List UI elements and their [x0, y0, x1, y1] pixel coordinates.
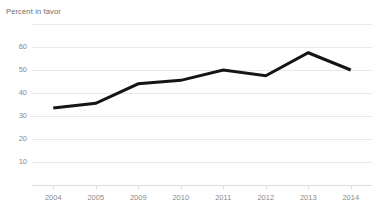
x-tick-label-2009: 2009 — [118, 194, 158, 202]
y-tick-label-60: 60 — [5, 43, 27, 51]
gridline-50 — [32, 70, 372, 71]
x-tick-label-2014: 2014 — [331, 194, 371, 202]
x-tick-label-2005: 2005 — [76, 194, 116, 202]
x-tick-label-2004: 2004 — [33, 194, 73, 202]
x-axis-line — [32, 185, 372, 186]
y-tick-label-50: 50 — [5, 66, 27, 74]
x-tick-label-2010: 2010 — [161, 194, 201, 202]
gridline-60 — [32, 47, 372, 48]
x-tickmark-2005 — [96, 185, 97, 189]
gridline-20 — [32, 139, 372, 140]
x-tickmark-2009 — [138, 185, 139, 189]
x-tickmark-2012 — [266, 185, 267, 189]
x-tick-label-2012: 2012 — [246, 194, 286, 202]
x-tickmark-2013 — [308, 185, 309, 189]
x-tickmark-2014 — [351, 185, 352, 189]
line-chart: Percent in favor 102030405060 2004200520… — [0, 0, 382, 213]
y-axis-tick-labels: 102030405060 — [0, 0, 27, 213]
x-tick-label-2013: 2013 — [288, 194, 328, 202]
x-tickmark-2004 — [53, 185, 54, 189]
gridline-40 — [32, 93, 372, 94]
y-tick-label-10: 10 — [5, 158, 27, 166]
gridline-70 — [32, 24, 372, 25]
x-tick-label-2011: 2011 — [203, 194, 243, 202]
y-tick-label-20: 20 — [5, 135, 27, 143]
x-tickmark-2011 — [223, 185, 224, 189]
y-tick-label-40: 40 — [5, 89, 27, 97]
x-tickmark-2010 — [181, 185, 182, 189]
gridline-10 — [32, 162, 372, 163]
y-tick-label-30: 30 — [5, 112, 27, 120]
gridline-30 — [32, 116, 372, 117]
plot-area — [32, 24, 372, 185]
